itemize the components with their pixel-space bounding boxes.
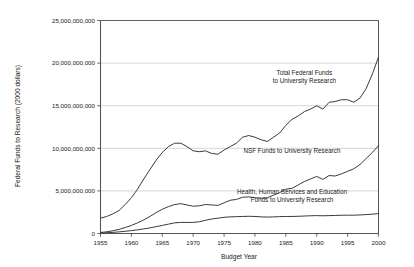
y-axis-title: Federal Funds to Research (2000 dollars)	[14, 65, 22, 187]
total-federal-funds-annotation-line-1: to University Research	[273, 77, 337, 85]
y-tick-label: 20,000,000,000	[52, 59, 96, 66]
x-axis-title: Budget Year	[221, 253, 258, 261]
y-tick-label: 10,000,000,000	[52, 145, 96, 152]
x-tick-label: 1990	[310, 239, 324, 246]
nsf-funds-annotation: NSF Funds to University Research	[244, 147, 341, 155]
x-tick-label: 1970	[186, 239, 200, 246]
hhs-education-funds-annotation-line-0: Health, Human Services and Education	[237, 188, 347, 195]
x-tick-label: 1955	[94, 239, 108, 246]
y-tick-label: 25,000,000,000	[52, 17, 96, 24]
hhs-education-funds-annotation: Health, Human Services and EducationFund…	[237, 188, 347, 204]
x-tick-label: 2000	[372, 239, 386, 246]
x-tick-label: 1975	[217, 239, 231, 246]
x-tick-label: 1980	[248, 239, 262, 246]
y-tick-label: 0	[92, 230, 96, 237]
x-tick-label: 1960	[125, 239, 139, 246]
chart-container: 1955196019651970197519801985199019952000…	[0, 0, 414, 267]
x-tick-label: 1985	[279, 239, 293, 246]
hhs-education-funds-annotation-line-1: Funds to University Research	[251, 196, 334, 204]
federal-funds-line-chart: 1955196019651970197519801985199019952000…	[0, 0, 414, 267]
chart-background	[0, 0, 414, 267]
x-tick-label: 1995	[341, 239, 355, 246]
total-federal-funds-annotation: Total Federal Fundsto University Researc…	[273, 69, 337, 85]
y-tick-label: 15,000,000,000	[52, 102, 96, 109]
x-tick-label: 1965	[155, 239, 169, 246]
total-federal-funds-annotation-line-0: Total Federal Funds	[277, 69, 333, 76]
y-tick-label: 5,000,000,000	[55, 187, 95, 194]
nsf-funds-annotation-line-0: NSF Funds to University Research	[244, 147, 341, 155]
